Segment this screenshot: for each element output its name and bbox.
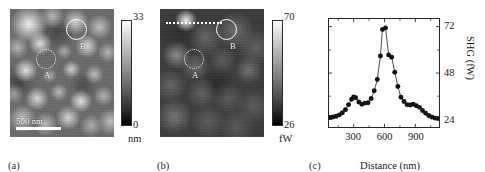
panel-label-c: (c) (309, 161, 321, 172)
panel-label-a: (a) (8, 161, 20, 172)
colorbar-shg-min: 26 (284, 120, 295, 131)
colorbar-shg-unit: fW (279, 134, 292, 145)
x-tick-600: 600 (377, 132, 393, 143)
colorbar-shg (272, 20, 283, 126)
colorbar-afm-min: 0 (133, 120, 138, 131)
shg-image: A B (160, 9, 264, 137)
roi-label-b: B (230, 42, 236, 51)
line-scan-chart (329, 19, 439, 127)
roi-label-b: B (80, 42, 86, 51)
scale-bar: 500 nm (16, 117, 61, 131)
scale-bar-rule (16, 127, 61, 130)
roi-label-a: A (44, 71, 50, 80)
figure-root: A B 500 nm 33 0 nm (a) A B (0, 0, 485, 172)
y-tick-48: 48 (444, 68, 455, 79)
roi-circle-b (216, 19, 237, 40)
roi-circle-a (184, 49, 204, 69)
roi-circle-b (66, 19, 87, 40)
plot-frame (328, 18, 440, 128)
y-tick-72: 72 (444, 21, 455, 32)
panel-b-shg: A B 70 26 fW (b) (152, 0, 302, 172)
colorbar-afm (121, 20, 132, 126)
line-scan-path (166, 22, 222, 24)
colorbar-shg-max: 70 (284, 12, 295, 23)
roi-label-a: A (192, 71, 198, 80)
colorbar-afm-max: 33 (133, 12, 144, 23)
shg-noise-overlay (160, 9, 264, 137)
panel-label-b: (b) (157, 161, 169, 172)
roi-circle-a (36, 49, 56, 69)
panel-c-plot: 244872 300600900 SHG (fW) Distance (nm) … (305, 0, 485, 172)
scale-bar-label: 500 nm (16, 117, 61, 126)
y-axis-label: SHG (fW) (464, 36, 475, 80)
x-tick-300: 300 (345, 132, 361, 143)
panel-a-afm: A B 500 nm 33 0 nm (a) (0, 0, 150, 172)
afm-image: A B 500 nm (10, 9, 114, 137)
x-tick-900: 900 (408, 132, 424, 143)
x-axis-label: Distance (nm) (335, 161, 445, 172)
y-tick-24: 24 (444, 115, 455, 126)
colorbar-afm-unit: nm (128, 134, 141, 145)
